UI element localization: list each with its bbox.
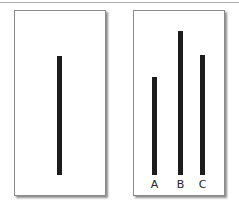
- comparison-line-a: [152, 77, 157, 175]
- reference-card: [14, 10, 106, 196]
- top-divider: [0, 2, 239, 3]
- reference-line: [57, 56, 62, 175]
- label-b: B: [174, 178, 188, 191]
- comparison-card: A B C: [133, 10, 225, 196]
- comparison-line-b: [178, 31, 183, 175]
- label-c: C: [196, 178, 210, 191]
- label-a: A: [148, 178, 162, 191]
- comparison-line-c: [200, 55, 205, 175]
